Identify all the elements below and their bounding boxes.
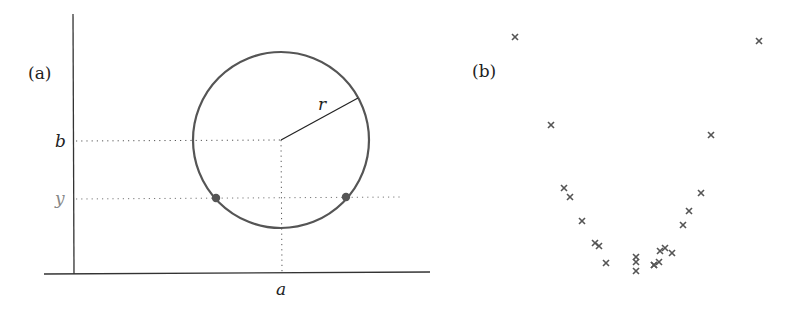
panel-b-label: (b): [472, 61, 496, 81]
panel-a: (a) r b y a: [28, 14, 430, 299]
a-guide-line: [281, 140, 282, 272]
panel-b: (b): [472, 34, 762, 274]
y-axis: [73, 14, 74, 274]
x-axis: [44, 272, 430, 274]
y-guide-line: [76, 197, 402, 199]
b-guide-line: [76, 140, 281, 141]
radius-label: r: [318, 94, 327, 114]
y-label: y: [54, 188, 65, 208]
intersection-point-right: [342, 193, 350, 201]
panel-a-label: (a): [28, 63, 51, 83]
b-label: b: [55, 131, 66, 151]
intersection-point-left: [212, 194, 220, 202]
scatter-points: [512, 34, 762, 274]
a-label: a: [276, 279, 286, 299]
figure-canvas: (a) r b y a (b): [0, 0, 790, 312]
